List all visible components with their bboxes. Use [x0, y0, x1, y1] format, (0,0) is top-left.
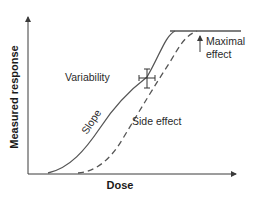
solid-curve-slope	[48, 31, 175, 173]
maximal-effect-label-line1: Maximal	[206, 35, 245, 47]
side-effect-label: Side effect	[132, 115, 182, 127]
variability-crosshair-icon	[139, 69, 155, 88]
variability-label: Variability	[65, 71, 110, 83]
maximal-effect-label-line2: effect	[206, 48, 232, 60]
dose-response-diagram: Variability Slope Side effect Maximal ef…	[0, 0, 267, 197]
x-axis-label: Dose	[107, 179, 134, 191]
y-axis-label: Measured response	[8, 45, 20, 148]
slope-label: Slope	[79, 107, 104, 136]
dashed-curve-side-effect	[78, 31, 197, 173]
